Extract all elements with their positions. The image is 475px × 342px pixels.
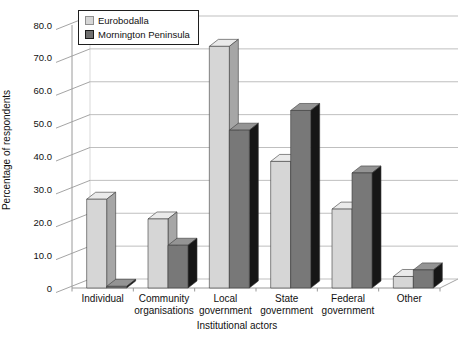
legend-label-eurobodalla: Eurobodalla	[98, 14, 149, 27]
category-label-community-organisations: organisations	[134, 305, 193, 316]
legend-swatch-mornington-peninsula	[85, 30, 94, 39]
legend-item-mornington-peninsula: Mornington Peninsula	[85, 28, 190, 41]
category-label-other: Other	[397, 293, 423, 304]
y-tick-label: 20.0	[34, 217, 53, 228]
bar-mornington-peninsula-individual	[107, 286, 127, 288]
y-tick-slant	[56, 213, 90, 227]
x-axis-title: Institutional actors	[197, 320, 278, 331]
y-tick-label: 40.0	[34, 151, 53, 162]
bar-eurobodalla-individual-side	[107, 192, 116, 288]
y-tick-slant	[56, 148, 90, 162]
bar-mornington-peninsula-state-government	[291, 110, 311, 288]
bar-mornington-peninsula-local-government	[229, 130, 249, 288]
y-tick-label: 60.0	[34, 85, 53, 96]
bar-eurobodalla-local-government	[209, 46, 229, 288]
y-tick-label: 10.0	[34, 250, 53, 261]
y-axis-title: Percentage of respondents	[1, 90, 12, 210]
category-label-state-government: State	[275, 293, 299, 304]
bar-mornington-peninsula-federal-government	[352, 173, 372, 288]
legend-item-eurobodalla: Eurobodalla	[85, 14, 190, 27]
bar-mornington-peninsula-other	[413, 270, 433, 288]
y-tick-label: 30.0	[34, 184, 53, 195]
bar-eurobodalla-other	[393, 276, 413, 288]
category-label-local-government: government	[199, 305, 252, 316]
y-tick-label: 70.0	[34, 52, 53, 63]
category-label-federal-government: Federal	[331, 293, 365, 304]
category-label-federal-government: government	[322, 305, 375, 316]
category-label-local-government: Local	[213, 293, 237, 304]
y-tick-slant	[56, 279, 90, 293]
bar-mornington-peninsula-state-government-side	[311, 103, 320, 288]
category-label-individual: Individual	[82, 293, 124, 304]
bar-chart: 010.020.030.040.050.060.070.080.0Individ…	[0, 0, 475, 342]
legend: Eurobodalla Mornington Peninsula	[78, 10, 199, 45]
y-tick-label: 50.0	[34, 118, 53, 129]
y-tick-label: 0	[47, 283, 52, 294]
category-label-state-government: government	[260, 305, 313, 316]
y-tick-slant	[56, 82, 90, 96]
category-label-community-organisations: Community	[139, 293, 190, 304]
bar-eurobodalla-community-organisations	[148, 219, 168, 288]
floor-right-edge	[440, 279, 458, 288]
y-tick-slant	[56, 115, 90, 129]
bar-mornington-peninsula-community-organisations	[168, 245, 188, 288]
y-tick-slant	[56, 246, 90, 260]
bar-eurobodalla-individual	[87, 199, 107, 288]
y-tick-slant	[56, 180, 90, 194]
bar-mornington-peninsula-local-government-side	[249, 123, 258, 288]
bar-mornington-peninsula-federal-government-side	[372, 166, 381, 288]
bar-chart-figure: 010.020.030.040.050.060.070.080.0Individ…	[0, 0, 475, 342]
bar-eurobodalla-federal-government	[332, 209, 352, 288]
bar-mornington-peninsula-community-organisations-side	[188, 238, 197, 288]
y-tick-slant	[56, 49, 90, 63]
legend-label-mornington-peninsula: Mornington Peninsula	[98, 28, 190, 41]
legend-swatch-eurobodalla	[85, 16, 94, 25]
y-tick-label: 80.0	[34, 20, 53, 31]
bar-eurobodalla-state-government	[271, 161, 291, 288]
